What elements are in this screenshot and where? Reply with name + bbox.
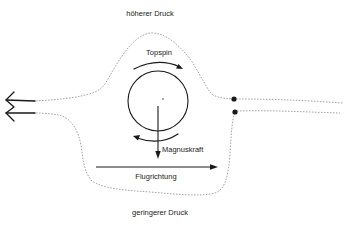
high-pressure-label: höherer Druck [126, 10, 174, 18]
low-pressure-label: geringerer Druck [132, 209, 188, 217]
topspin-rotation-arrow-icon [134, 62, 183, 69]
bottom-rotation-arrow-icon [133, 134, 178, 141]
magnus-force-label: Magnuskraft [162, 146, 203, 154]
ball-center-dot [162, 98, 163, 99]
topspin-label: Topspin [146, 49, 172, 57]
upper-airflow-line [33, 33, 234, 101]
magnus-force-arrow-icon [155, 106, 160, 159]
lower-airflow-line [33, 112, 235, 195]
lower-wake-line [237, 111, 340, 113]
upper-wake-line [236, 99, 343, 103]
flight-direction-arrow-icon [96, 164, 218, 169]
upper-separation-point [231, 96, 236, 101]
flight-direction-label: Flugrichtung [135, 173, 176, 181]
magnus-effect-diagram [0, 0, 357, 230]
lower-separation-point [232, 109, 237, 114]
incoming-airflow-arrows-icon [6, 92, 35, 121]
